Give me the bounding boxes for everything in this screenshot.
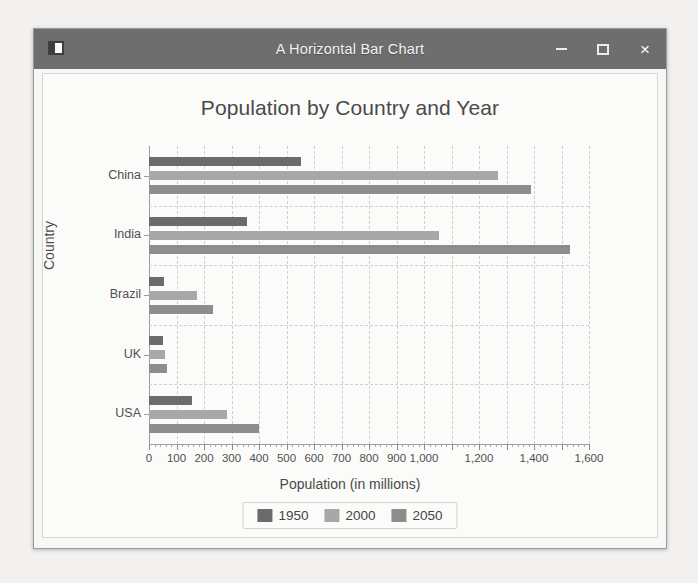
x-tick-minor (347, 444, 348, 447)
y-tick-mark (144, 295, 149, 296)
y-tick-label-usa: USA (42, 406, 141, 420)
y-tick-label-china: China (42, 168, 141, 182)
x-tick-label-1200: 1,200 (465, 452, 494, 464)
x-tick-mark (149, 444, 150, 450)
x-tick-minor (292, 444, 293, 447)
legend-swatch-icon (392, 509, 407, 522)
minimize-icon (556, 48, 567, 50)
legend-swatch-icon (324, 509, 339, 522)
legend-item-2050[interactable]: 2050 (392, 508, 443, 523)
gridline-vertical (562, 146, 563, 444)
x-tick-minor (270, 444, 271, 447)
x-tick-mark (424, 444, 425, 450)
x-tick-label-400: 400 (249, 452, 268, 464)
x-tick-minor (160, 444, 161, 447)
x-tick-mark (204, 444, 205, 450)
x-tick-minor (166, 444, 167, 447)
x-tick-minor (468, 444, 469, 447)
bar-usa-2050 (149, 424, 259, 433)
x-tick-minor (353, 444, 354, 447)
x-tick-mark (232, 444, 233, 450)
x-tick-mark (452, 444, 453, 450)
gridline-horizontal (149, 325, 589, 326)
x-tick-minor (419, 444, 420, 447)
x-tick-label-600: 600 (304, 452, 323, 464)
bar-china-2000 (149, 171, 498, 180)
gridline-vertical (589, 146, 590, 444)
x-tick-mark (177, 444, 178, 450)
close-button[interactable]: × (624, 29, 666, 69)
application-window: A Horizontal Bar Chart × Population by C… (33, 28, 667, 549)
legend-swatch-icon (257, 509, 272, 522)
gridline-horizontal (149, 265, 589, 266)
x-tick-minor (248, 444, 249, 447)
x-tick-mark (259, 444, 260, 450)
bar-china-2050 (149, 185, 531, 194)
x-tick-minor (281, 444, 282, 447)
maximize-button[interactable] (582, 29, 624, 69)
minimize-button[interactable] (540, 29, 582, 69)
x-tick-mark (314, 444, 315, 450)
x-tick-minor (303, 444, 304, 447)
y-tick-mark (144, 355, 149, 356)
x-tick-minor (430, 444, 431, 447)
x-tick-mark (342, 444, 343, 450)
x-tick-minor (457, 444, 458, 447)
x-tick-minor (573, 444, 574, 447)
bar-usa-1950 (149, 396, 192, 405)
legend-item-1950[interactable]: 1950 (257, 508, 308, 523)
x-tick-minor (309, 444, 310, 447)
legend-label: 1950 (278, 508, 308, 523)
title-bar[interactable]: A Horizontal Bar Chart × (34, 29, 666, 69)
x-tick-minor (490, 444, 491, 447)
x-tick-minor (171, 444, 172, 447)
x-tick-minor (435, 444, 436, 447)
x-tick-minor (485, 444, 486, 447)
chart-legend: 195020002050 (242, 502, 457, 529)
x-tick-minor (210, 444, 211, 447)
chart-canvas: Population by Country and Year Country C… (42, 73, 658, 538)
x-tick-minor (545, 444, 546, 447)
x-tick-minor (463, 444, 464, 447)
x-tick-label-100: 100 (167, 452, 186, 464)
window-controls: × (540, 29, 666, 69)
x-tick-label-700: 700 (332, 452, 351, 464)
x-tick-minor (551, 444, 552, 447)
x-tick-minor (501, 444, 502, 447)
x-tick-mark (589, 444, 590, 450)
gridline-vertical (534, 146, 535, 444)
x-tick-label-500: 500 (277, 452, 296, 464)
x-tick-minor (243, 444, 244, 447)
x-tick-minor (556, 444, 557, 447)
bar-uk-2000 (149, 350, 165, 359)
x-tick-mark (287, 444, 288, 450)
x-tick-mark (369, 444, 370, 450)
x-tick-minor (402, 444, 403, 447)
x-tick-minor (237, 444, 238, 447)
x-tick-minor (276, 444, 277, 447)
x-tick-minor (215, 444, 216, 447)
x-tick-minor (474, 444, 475, 447)
x-tick-minor (265, 444, 266, 447)
legend-label: 2050 (413, 508, 443, 523)
bar-india-2000 (149, 231, 439, 240)
x-tick-minor (199, 444, 200, 447)
x-tick-label-300: 300 (222, 452, 241, 464)
x-tick-minor (226, 444, 227, 447)
x-tick-minor (380, 444, 381, 447)
x-tick-minor (364, 444, 365, 447)
x-tick-minor (193, 444, 194, 447)
x-tick-minor (584, 444, 585, 447)
bar-usa-2000 (149, 410, 227, 419)
x-tick-mark (397, 444, 398, 450)
x-tick-minor (523, 444, 524, 447)
x-tick-minor (518, 444, 519, 447)
x-tick-minor (540, 444, 541, 447)
x-tick-minor (331, 444, 332, 447)
legend-label: 2000 (345, 508, 375, 523)
bar-brazil-2050 (149, 305, 213, 314)
x-tick-label-200: 200 (194, 452, 213, 464)
chart-title: Population by Country and Year (43, 96, 657, 120)
bar-china-1950 (149, 157, 301, 166)
legend-item-2000[interactable]: 2000 (324, 508, 375, 523)
